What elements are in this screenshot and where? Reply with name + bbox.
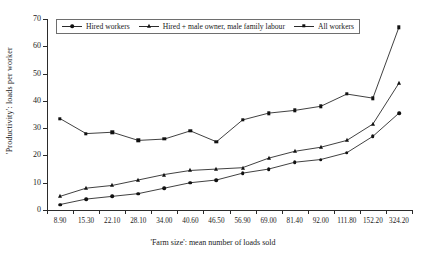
- x-axis-tick-label: 92.00: [313, 217, 329, 225]
- data-point-marker: [241, 118, 244, 121]
- x-axis-tick-label: 81.40: [287, 217, 303, 225]
- data-point-marker: [215, 140, 218, 143]
- x-axis-tick: [47, 210, 48, 214]
- data-point-marker: [267, 167, 271, 171]
- data-point-marker: [397, 111, 401, 115]
- x-axis-tick: [230, 210, 231, 214]
- data-point-marker: [267, 156, 271, 160]
- y-axis-tick-label: 70: [33, 15, 41, 23]
- x-axis-tick-label: 34.00: [156, 217, 172, 225]
- data-point-marker: [58, 117, 61, 120]
- data-point-marker: [241, 171, 245, 175]
- data-point-marker: [136, 178, 140, 182]
- data-point-marker: [136, 192, 140, 196]
- data-point-marker: [162, 172, 166, 176]
- data-point-marker: [214, 167, 218, 171]
- x-axis-tick: [99, 210, 100, 214]
- data-point-marker: [215, 178, 219, 182]
- x-axis-tick: [308, 210, 309, 214]
- x-axis-tick-label: 15.30: [78, 217, 94, 225]
- y-axis-tick-label: 30: [33, 124, 41, 132]
- x-axis-title: 'Farm size': mean number of loads sold: [0, 238, 426, 247]
- data-point-marker: [163, 186, 167, 190]
- x-axis: 8.9015.3022.1028.1034.0040.6046.5056.906…: [47, 210, 412, 211]
- data-point-marker: [110, 183, 114, 187]
- y-axis-tick-label: 60: [33, 42, 41, 50]
- data-point-marker: [319, 145, 323, 149]
- data-point-marker: [110, 131, 113, 134]
- data-point-marker: [345, 151, 349, 155]
- data-point-marker: [110, 195, 114, 199]
- data-point-marker: [371, 135, 375, 139]
- x-axis-tick: [412, 210, 413, 214]
- data-point-marker: [189, 129, 192, 132]
- series-line-0: [60, 113, 399, 204]
- y-axis-tick-label: 10: [33, 179, 41, 187]
- x-axis-tick: [282, 210, 283, 214]
- data-point-marker: [397, 25, 400, 28]
- y-axis-tick-label: 20: [33, 151, 41, 159]
- x-axis-tick-label: 111.80: [337, 217, 356, 225]
- y-axis-tick-label: 40: [33, 97, 41, 105]
- data-point-marker: [293, 109, 296, 112]
- data-point-marker: [188, 168, 192, 172]
- data-point-marker: [241, 166, 245, 170]
- x-axis-tick-label: 69.00: [261, 217, 277, 225]
- data-point-marker: [397, 81, 401, 85]
- y-axis-tick-label: 0: [37, 206, 41, 214]
- data-point-marker: [345, 138, 349, 142]
- data-point-marker: [58, 203, 62, 207]
- data-point-marker: [293, 149, 297, 153]
- y-axis-title: 'Productivity': loads per worker: [5, 11, 14, 191]
- x-axis-tick-label: 8.90: [54, 217, 67, 225]
- x-axis-tick-label: 324.20: [389, 217, 409, 225]
- x-axis-tick: [256, 210, 257, 214]
- data-point-marker: [84, 132, 87, 135]
- x-axis-tick: [125, 210, 126, 214]
- x-axis-tick: [334, 210, 335, 214]
- x-axis-tick-label: 28.10: [130, 217, 146, 225]
- x-axis-tick-label: 40.60: [182, 217, 198, 225]
- series-lines: [47, 19, 412, 210]
- series-line-2: [60, 27, 399, 142]
- plot-area: [47, 19, 412, 210]
- x-axis-tick-label: 56.90: [234, 217, 250, 225]
- x-axis-tick-label: 46.50: [208, 217, 224, 225]
- data-point-marker: [319, 105, 322, 108]
- data-point-marker: [345, 92, 348, 95]
- x-axis-tick: [203, 210, 204, 214]
- x-axis-tick: [73, 210, 74, 214]
- x-axis-tick-label: 22.10: [104, 217, 120, 225]
- x-axis-tick: [177, 210, 178, 214]
- data-point-marker: [84, 186, 88, 190]
- data-point-marker: [319, 158, 323, 162]
- y-axis-tick-label: 50: [33, 70, 41, 78]
- data-point-marker: [84, 197, 88, 201]
- x-axis-tick: [360, 210, 361, 214]
- data-point-marker: [58, 194, 62, 198]
- x-axis-tick-label: 152.20: [363, 217, 383, 225]
- data-point-marker: [371, 122, 375, 126]
- data-point-marker: [137, 139, 140, 142]
- data-point-marker: [189, 181, 193, 185]
- data-point-marker: [371, 96, 374, 99]
- data-point-marker: [293, 160, 297, 164]
- x-axis-tick: [151, 210, 152, 214]
- data-point-marker: [163, 137, 166, 140]
- data-point-marker: [267, 111, 270, 114]
- x-axis-tick: [386, 210, 387, 214]
- chart-root: Hired workers Hired + male owner, male f…: [0, 0, 426, 261]
